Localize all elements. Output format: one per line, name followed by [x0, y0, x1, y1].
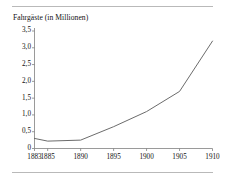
x-axis-tick-label: 1885	[31, 153, 65, 161]
x-axis-tick-label: 1890	[64, 153, 98, 161]
x-axis-tick-labels: 1883188518901895190019051910	[0, 153, 225, 167]
figure-container: Fahrgäste (in Millionen) 3,53,02,52,01,5…	[0, 0, 225, 184]
data-series-group	[35, 41, 213, 141]
x-axis-tick-label: 1900	[130, 153, 164, 161]
axes-group	[35, 28, 213, 149]
data-line-1	[35, 41, 213, 141]
y-axis-tick-label: 3,0	[0, 44, 31, 51]
y-axis-tick-label: 1,5	[0, 95, 31, 102]
bottom-divider-rule	[12, 172, 213, 173]
y-axis-tick-label: 3,5	[0, 27, 31, 34]
y-axis-tick-label: 1,0	[0, 111, 31, 118]
x-axis-tick-label: 1910	[196, 153, 226, 161]
y-axis-tick-label: 0	[0, 145, 31, 152]
y-axis-tick-label: 0,5	[0, 128, 31, 135]
y-axis-tick-label: 2,5	[0, 61, 31, 68]
axis-ticks-group	[32, 31, 213, 151]
x-axis-tick-label: 1905	[163, 153, 197, 161]
x-axis-tick-label: 1895	[97, 153, 131, 161]
y-axis-tick-label: 2,0	[0, 78, 31, 85]
